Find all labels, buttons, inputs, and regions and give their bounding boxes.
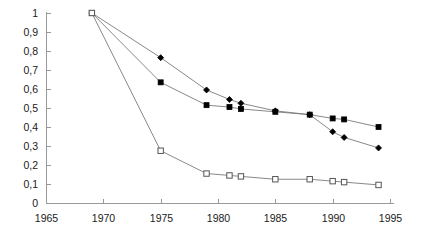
data-point-series-diamond <box>204 87 210 93</box>
x-tick-label: 1995 <box>379 212 403 224</box>
data-point-series-open-square <box>227 173 232 178</box>
line-series-diamond <box>92 13 379 148</box>
data-point-series-open-square <box>238 174 243 179</box>
line-series-filled-square <box>92 13 379 127</box>
data-point-series-filled-square <box>227 105 232 110</box>
x-tick-label: 1965 <box>35 212 59 224</box>
chart-container: 1965197019751980198519901995 00,10,20,30… <box>0 0 424 240</box>
x-tick-label: 1975 <box>150 212 174 224</box>
y-tick-label: 0,4 <box>23 121 38 133</box>
y-tick-label: 0,5 <box>23 102 38 114</box>
series-lines-group <box>92 13 379 185</box>
x-axis-ticks <box>47 199 391 204</box>
data-point-series-open-square <box>376 182 381 187</box>
data-point-series-open-square <box>330 178 335 183</box>
data-point-series-filled-square <box>330 116 335 121</box>
y-axis-tick-labels: 00,10,20,30,40,50,60,70,80,91 <box>23 7 38 209</box>
y-tick-label: 0,2 <box>23 159 38 171</box>
x-tick-label: 1985 <box>264 212 288 224</box>
data-point-series-filled-square <box>204 103 209 108</box>
x-tick-label: 1980 <box>207 212 231 224</box>
data-point-series-open-square <box>273 177 278 182</box>
data-point-series-open-square <box>158 148 163 153</box>
x-tick-label: 1990 <box>322 212 346 224</box>
y-axis-ticks <box>47 14 51 204</box>
y-tick-label: 0,7 <box>23 64 38 76</box>
y-tick-label: 0,9 <box>23 26 38 38</box>
x-tick-label: 1970 <box>92 212 116 224</box>
data-point-series-open-square <box>89 10 94 15</box>
data-point-series-filled-square <box>238 106 243 111</box>
data-point-series-diamond <box>158 55 164 61</box>
line-series-open-square <box>92 13 379 185</box>
data-point-series-filled-square <box>307 112 312 117</box>
series-markers-group <box>89 10 382 188</box>
data-point-series-filled-square <box>273 109 278 114</box>
y-tick-label: 0 <box>32 197 38 209</box>
data-point-series-diamond <box>238 100 244 106</box>
data-point-series-open-square <box>341 179 346 184</box>
y-tick-label: 0,8 <box>23 45 38 57</box>
data-point-series-diamond <box>226 96 232 102</box>
data-point-series-filled-square <box>158 80 163 85</box>
data-point-series-filled-square <box>376 125 381 130</box>
y-tick-label: 0,1 <box>23 178 38 190</box>
data-point-series-open-square <box>307 177 312 182</box>
chart-plot-area: 1965197019751980198519901995 00,10,20,30… <box>0 0 424 240</box>
y-tick-label: 0,3 <box>23 140 38 152</box>
data-point-series-diamond <box>341 134 347 140</box>
data-point-series-diamond <box>376 145 382 151</box>
y-tick-label: 0,6 <box>23 83 38 95</box>
y-tick-label: 1 <box>32 7 38 19</box>
x-axis-tick-labels: 1965197019751980198519901995 <box>35 212 403 224</box>
data-point-series-filled-square <box>342 117 347 122</box>
data-point-series-open-square <box>204 171 209 176</box>
